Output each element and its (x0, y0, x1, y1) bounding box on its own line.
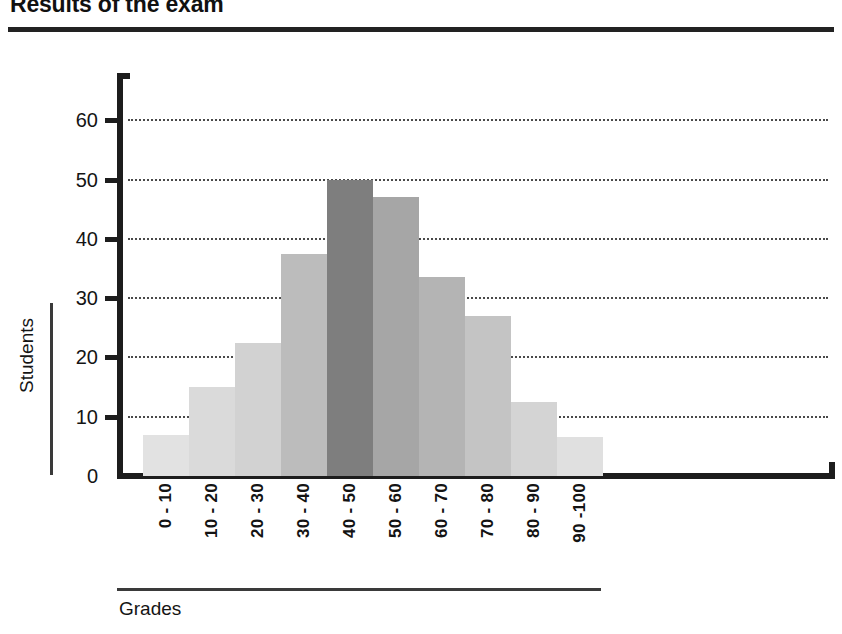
bar-series (143, 75, 603, 476)
x-tick-label-slot: 0 - 10 (143, 483, 189, 583)
y-tick-label-50: 50 (54, 168, 98, 191)
bar[interactable] (511, 402, 557, 476)
y-tick-50 (105, 178, 119, 183)
x-tick-label: 20 - 30 (248, 483, 268, 538)
x-tick-label-slot: 10 - 20 (189, 483, 235, 583)
x-axis-title-rule (117, 588, 601, 591)
x-tick-label-slot: 30 - 40 (281, 483, 327, 583)
title-divider (8, 27, 834, 32)
y-tick-label-10: 10 (54, 405, 98, 428)
x-axis-title: Grades (119, 598, 181, 620)
y-tick-10 (105, 415, 119, 420)
y-tick-label-60: 60 (54, 109, 98, 132)
y-axis-title: Students (16, 318, 38, 393)
y-axis-top-cap (117, 73, 130, 79)
x-tick-label-slot: 80 - 90 (511, 483, 557, 583)
x-tick-label-slot: 50 - 60 (373, 483, 419, 583)
y-tick-40 (105, 237, 119, 242)
chart-page: Results of the exam 0102030405060 0 - 10… (0, 0, 842, 634)
y-tick-label-30: 30 (54, 287, 98, 310)
y-axis-tick-labels: 0102030405060 (46, 0, 98, 634)
y-tick-30 (105, 296, 119, 301)
x-tick-label: 30 - 40 (294, 483, 314, 538)
x-tick-label: 60 - 70 (432, 483, 452, 538)
x-tick-label: 80 - 90 (524, 483, 544, 538)
y-tick-label-40: 40 (54, 227, 98, 250)
bar[interactable] (465, 316, 511, 476)
bar[interactable] (189, 387, 235, 476)
y-tick-20 (105, 355, 119, 360)
x-tick-label: 40 - 50 (340, 483, 360, 538)
x-tick-label-slot: 20 - 30 (235, 483, 281, 583)
y-axis-title-rule (50, 303, 53, 475)
x-tick-label: 10 - 20 (202, 483, 222, 538)
bar[interactable] (281, 254, 327, 476)
x-axis-tick-labels: 0 - 1010 - 2020 - 3030 - 4040 - 5050 - 6… (143, 483, 603, 583)
bar[interactable] (235, 343, 281, 476)
x-tick-label-slot: 40 - 50 (327, 483, 373, 583)
page-title: Results of the exam (10, 0, 224, 18)
x-tick-label: 70 - 80 (478, 483, 498, 538)
bar[interactable] (373, 197, 419, 476)
x-tick-label-slot: 60 - 70 (419, 483, 465, 583)
x-tick-label-slot: 70 - 80 (465, 483, 511, 583)
bar[interactable] (557, 437, 603, 476)
x-axis-end-cap (829, 462, 835, 479)
x-tick-label: 90 -100 (570, 483, 590, 543)
y-tick-60 (105, 118, 119, 123)
y-axis-title-wrap: Students (16, 318, 46, 448)
bar[interactable] (143, 435, 189, 477)
y-tick-label-20: 20 (54, 346, 98, 369)
bar[interactable] (327, 180, 373, 477)
x-tick-label: 50 - 60 (386, 483, 406, 538)
y-tick-label-0: 0 (54, 465, 98, 488)
x-tick-label: 0 - 10 (156, 483, 176, 528)
bar[interactable] (419, 277, 465, 476)
x-tick-label-slot: 90 -100 (557, 483, 603, 583)
